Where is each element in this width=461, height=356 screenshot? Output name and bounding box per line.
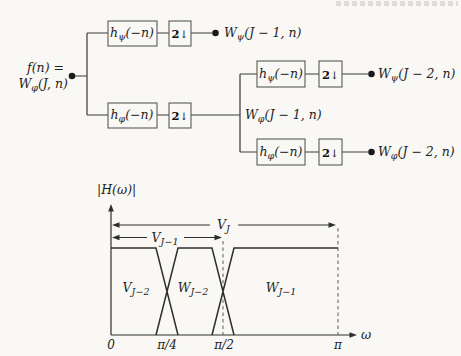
downsampler-label-3: 2↓ <box>322 68 339 82</box>
figure-svg: f(n) = Wφ(J, n) hψ(−n) hφ(−n) hψ(−n) hφ(… <box>0 0 461 356</box>
vj-span-arrowhead-right <box>329 222 337 228</box>
downsampler-label-2: 2↓ <box>172 109 189 123</box>
filter-label-hphi-stage2: hφ(−n) <box>260 144 303 161</box>
vj1-span-arrowhead-left <box>112 235 120 241</box>
tick-label-pi2: π/2 <box>213 338 234 352</box>
output-label-wphi-j2: Wφ(J − 2, n) <box>378 144 455 161</box>
filter-label-hphi-stage1: hφ(−n) <box>111 107 154 124</box>
output-dot-wphi-j2 <box>368 149 375 156</box>
downsampler-label-4: 2↓ <box>322 146 339 160</box>
filter-label-hpsi-stage1: hψ(−n) <box>110 25 154 42</box>
input-label-line1: f(n) = <box>26 60 64 75</box>
vj-span-label: VJ <box>217 217 231 234</box>
output-label-wpsi-j2: Wψ(J − 2, n) <box>378 66 456 83</box>
filterbank-diagram: f(n) = Wφ(J, n) hψ(−n) hφ(−n) hψ(−n) hφ(… <box>18 21 455 165</box>
region-label-vj2: VJ−2 <box>123 280 150 297</box>
x-axis-label: ω <box>361 327 371 342</box>
tick-label-0: 0 <box>107 338 115 352</box>
output-dot-wpsi-j1 <box>212 30 219 37</box>
vj1-span-arrowhead-right <box>215 235 223 241</box>
downsampler-label-1: 2↓ <box>172 27 189 41</box>
output-dot-wpsi-j2 <box>368 71 375 78</box>
vj-span-arrowhead-left <box>112 222 120 228</box>
page-root: f(n) = Wφ(J, n) hψ(−n) hφ(−n) hψ(−n) hφ(… <box>0 0 461 356</box>
output-label-wpsi-j1: Wψ(J − 1, n) <box>224 25 302 42</box>
region-label-wj2: WJ−2 <box>178 280 209 297</box>
spectrum-plot: |H(ω)| ω VJ VJ−1 VJ−2 WJ−2 WJ−1 0 π/4 <box>97 182 371 352</box>
tick-label-pi4: π/4 <box>156 338 177 352</box>
vj1-span-label: VJ−1 <box>152 230 179 247</box>
region-label-wj1: WJ−1 <box>266 280 297 297</box>
y-axis-arrowhead <box>108 204 114 212</box>
input-node-dot <box>69 73 76 80</box>
input-label-line2: Wφ(J, n) <box>18 76 68 93</box>
label-wphi-j1: Wφ(J − 1, n) <box>245 107 322 124</box>
tick-label-pi: π <box>333 338 343 352</box>
x-axis-arrowhead <box>350 332 358 338</box>
y-axis-label: |H(ω)| <box>97 182 136 197</box>
filter-label-hpsi-stage2: hψ(−n) <box>259 66 303 83</box>
